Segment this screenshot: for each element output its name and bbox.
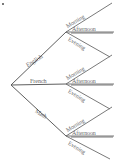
branch-label-french: French (30, 78, 47, 84)
tree-branch-lines (0, 0, 116, 160)
tree-diagram: English French Math Morning Afternoon Ev… (0, 0, 116, 160)
branch-label-english-afternoon: Afternoon (72, 26, 96, 32)
branch-label-math-afternoon: Afternoon (72, 130, 96, 136)
branch-label-french-afternoon: Afternoon (72, 78, 96, 84)
